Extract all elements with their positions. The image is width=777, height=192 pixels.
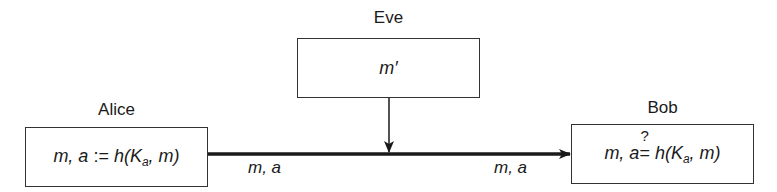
alice-label: Alice (25, 100, 208, 120)
eve-label: Eve (297, 8, 480, 28)
verify-equals-symbol: ?= (639, 143, 650, 164)
eve-box: m′ (297, 38, 480, 98)
eve-expr: m′ (379, 58, 397, 79)
sent-message-label: m, a (248, 158, 281, 178)
received-message-label: m, a (494, 158, 527, 178)
alice-expr: m, a := h(Ka, m) (53, 146, 179, 169)
bob-expr: m, a?= h(Ka, m) (604, 143, 720, 166)
bob-label: Bob (571, 98, 754, 118)
bob-box: m, a?= h(Ka, m) (571, 124, 754, 184)
alice-box: m, a := h(Ka, m) (25, 127, 208, 187)
